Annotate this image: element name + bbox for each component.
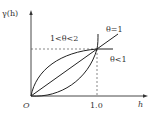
curve-theta-eq-1 xyxy=(31,34,118,96)
y-axis-arrow-icon xyxy=(29,10,32,15)
y-axis-label: γ(h) xyxy=(2,9,18,18)
x-axis-arrow-icon xyxy=(143,94,148,97)
x-tick-label: 1.0 xyxy=(90,101,103,110)
series-label-theta-eq-1: θ=1 xyxy=(106,25,123,34)
curve-theta-lt-1 xyxy=(31,49,113,96)
x-axis-label: h xyxy=(138,100,143,109)
origin-label: O xyxy=(23,101,30,110)
series-label-theta-lt-1: θ<1 xyxy=(110,55,127,64)
curve-theta-1-2 xyxy=(31,34,98,96)
series-label-theta-1-2: 1<θ<2 xyxy=(50,34,78,43)
variogram-chart: γ(h) h O 1.0 1<θ<2 θ=1 θ<1 xyxy=(0,0,152,120)
